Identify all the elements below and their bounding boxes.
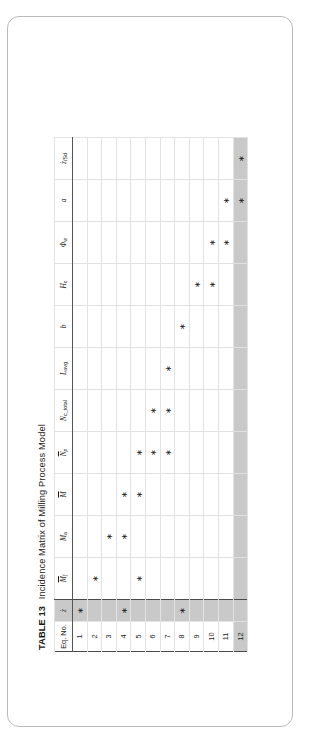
cell-eq8-phiw — [175, 221, 190, 263]
cell-eq10-Hc: ∗ — [204, 263, 219, 305]
cell-eq8-Hc — [175, 263, 190, 305]
cell-eq4-phiw — [116, 221, 131, 263]
incidence-mark: ∗ — [223, 239, 231, 246]
cell-eq11-M — [218, 473, 233, 515]
cell-eq3-Nc_total — [102, 389, 117, 431]
cell-eq5-Ma — [131, 515, 146, 557]
cell-eq1-Lavg — [73, 347, 88, 389]
cell-eq8-M — [175, 473, 190, 515]
cell-eq11-a: ∗ — [218, 179, 233, 221]
table-row: 5∗∗∗ — [131, 137, 146, 651]
cell-eq2-Np — [87, 431, 102, 473]
cell-eq4-Np — [116, 431, 131, 473]
incidence-mark: ∗ — [150, 407, 158, 414]
cell-eq4-Ma: ∗ — [116, 515, 131, 557]
cell-eq10-Nc_total — [204, 389, 219, 431]
cell-eq2-phiw — [87, 221, 102, 263]
cell-eq1-b — [73, 305, 88, 347]
row-label-eq-2: 2 — [87, 621, 102, 651]
cell-eq3-zdot_Sd — [102, 137, 117, 179]
cell-eq12-Hc — [233, 263, 248, 305]
table-row: 7∗∗∗ — [160, 137, 175, 651]
table-label: TABLE 13 — [37, 605, 47, 649]
cell-eq9-b — [189, 305, 204, 347]
incidence-mark: ∗ — [194, 281, 202, 288]
cell-eq4-zdot: ∗ — [116, 599, 131, 621]
row-label-eq-5: 5 — [131, 621, 146, 651]
incidence-mark: ∗ — [135, 575, 143, 582]
cell-eq1-Mf — [73, 557, 88, 599]
cell-eq9-Np — [189, 431, 204, 473]
cell-eq5-b — [131, 305, 146, 347]
cell-eq8-Lavg — [175, 347, 190, 389]
cell-eq3-Mf — [102, 557, 117, 599]
cell-eq7-a — [160, 179, 175, 221]
cell-eq4-b — [116, 305, 131, 347]
cell-eq6-zdot — [145, 599, 160, 621]
cell-eq7-M — [160, 473, 175, 515]
cell-eq1-zdot: ∗ — [73, 599, 88, 621]
cell-eq9-Lavg — [189, 347, 204, 389]
row-label-eq-11: 11 — [218, 621, 233, 651]
cell-eq9-Ma — [189, 515, 204, 557]
table-row: 6∗∗ — [145, 137, 160, 651]
cell-eq12-Ma — [233, 515, 248, 557]
cell-eq9-phiw — [189, 221, 204, 263]
cell-eq11-zdot — [218, 599, 233, 621]
cell-eq8-zdot: ∗ — [175, 599, 190, 621]
cell-eq6-b — [145, 305, 160, 347]
cell-eq6-Nc_total: ∗ — [145, 389, 160, 431]
cell-eq12-Lavg — [233, 347, 248, 389]
rotated-table-container: TABLE 13 Incidence Matrix of Milling Pro… — [37, 92, 263, 652]
cell-eq4-a — [116, 179, 131, 221]
cell-eq2-Mf: ∗ — [87, 557, 102, 599]
cell-eq3-Np — [102, 431, 117, 473]
incidence-mark: ∗ — [223, 197, 231, 204]
incidence-matrix-table: Eq. No.żMfMaMNpNc_totalLavgbHcΦważ/Sd 1∗… — [54, 137, 248, 652]
cell-eq5-Hc — [131, 263, 146, 305]
column-header-Np: Np — [55, 431, 73, 473]
cell-eq2-Ma — [87, 515, 102, 557]
cell-eq8-Mf — [175, 557, 190, 599]
cell-eq1-Np — [73, 431, 88, 473]
cell-eq2-b — [87, 305, 102, 347]
row-label-eq-6: 6 — [145, 621, 160, 651]
column-header-Ma: Ma — [55, 515, 73, 557]
cell-eq11-zdot_Sd — [218, 137, 233, 179]
cell-eq6-Lavg — [145, 347, 160, 389]
table-header-row: Eq. No.żMfMaMNpNc_totalLavgbHcΦważ/Sd — [55, 137, 73, 651]
cell-eq3-zdot — [102, 599, 117, 621]
cell-eq12-zdot — [233, 599, 248, 621]
table-row: 10∗∗ — [204, 137, 219, 651]
incidence-mark: ∗ — [164, 365, 172, 372]
incidence-mark: ∗ — [208, 239, 216, 246]
incidence-mark: ∗ — [164, 407, 172, 414]
row-label-eq-1: 1 — [73, 621, 88, 651]
column-header-Nc_total: Nc_total — [55, 389, 73, 431]
cell-eq11-b — [218, 305, 233, 347]
cell-eq5-a — [131, 179, 146, 221]
table-row: 3∗ — [102, 137, 117, 651]
table-caption: TABLE 13 Incidence Matrix of Milling Pro… — [37, 92, 48, 650]
cell-eq10-Ma — [204, 515, 219, 557]
cell-eq5-Lavg — [131, 347, 146, 389]
cell-eq8-b: ∗ — [175, 305, 190, 347]
incidence-mark: ∗ — [179, 323, 187, 330]
cell-eq10-zdot_Sd — [204, 137, 219, 179]
cell-eq10-Lavg — [204, 347, 219, 389]
incidence-mark: ∗ — [106, 533, 114, 540]
cell-eq4-Mf — [116, 557, 131, 599]
cell-eq11-Lavg — [218, 347, 233, 389]
cell-eq7-Lavg: ∗ — [160, 347, 175, 389]
incidence-mark: ∗ — [91, 575, 99, 582]
column-header-b: b — [55, 305, 73, 347]
cell-eq2-Hc — [87, 263, 102, 305]
cell-eq10-phiw: ∗ — [204, 221, 219, 263]
cell-eq12-a: ∗ — [233, 179, 248, 221]
cell-eq2-zdot_Sd — [87, 137, 102, 179]
incidence-mark: ∗ — [121, 533, 129, 540]
table-row: 2∗ — [87, 137, 102, 651]
cell-eq6-Ma — [145, 515, 160, 557]
row-label-eq-12: 12 — [233, 621, 248, 651]
cell-eq4-zdot_Sd — [116, 137, 131, 179]
